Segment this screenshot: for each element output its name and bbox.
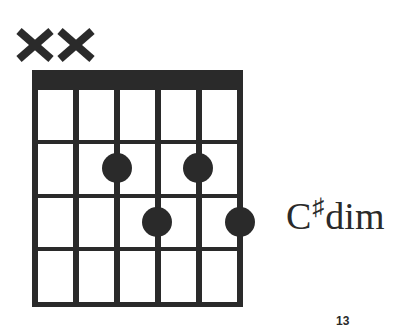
- muted-x-icon: [19, 31, 51, 59]
- string-4: [155, 70, 161, 307]
- string-3: [114, 70, 120, 307]
- fret-line: [32, 247, 243, 251]
- chord-name-label: C♯dim: [286, 194, 384, 243]
- nut: [32, 70, 243, 90]
- muted-x-icon: [60, 31, 92, 59]
- chord-quality: dim: [325, 195, 384, 237]
- string-1: [32, 70, 38, 307]
- finger-dot: [142, 207, 172, 237]
- finger-dot: [183, 153, 213, 183]
- strings: [32, 70, 243, 307]
- finger-dot: [102, 153, 132, 183]
- page-number: 13: [336, 314, 349, 328]
- fret-line: [32, 194, 243, 198]
- finger-dot: [225, 207, 255, 237]
- sharp-symbol: ♯: [312, 194, 324, 220]
- string-5: [196, 70, 202, 307]
- string-6: [237, 70, 243, 307]
- string-2: [73, 70, 79, 307]
- chord-root: C: [286, 195, 311, 237]
- muted-markers: [19, 31, 92, 59]
- chord-diagram: [0, 0, 393, 328]
- fret-line: [32, 302, 243, 307]
- fret-line: [32, 140, 243, 144]
